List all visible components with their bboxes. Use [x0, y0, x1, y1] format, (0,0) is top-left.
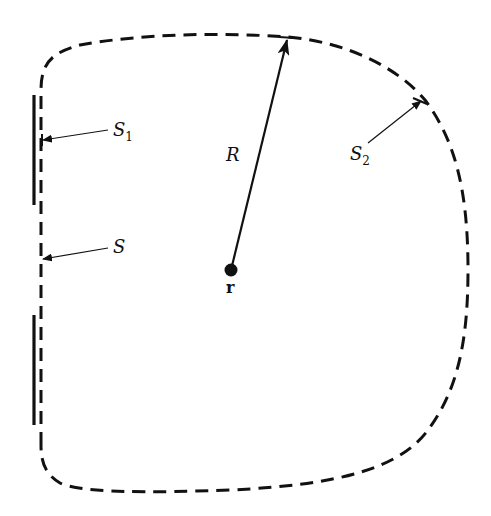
radius-tick — [279, 37, 295, 38]
s-label: S — [113, 236, 125, 257]
closed-surface-S — [41, 34, 468, 491]
radius-label: R — [225, 144, 240, 165]
diagram-canvas: S1 S S2 R r — [0, 0, 491, 516]
s2-pointer-arrow — [368, 101, 421, 143]
observation-point — [225, 264, 238, 277]
s-pointer-arrow — [43, 248, 108, 259]
s1-pointer-arrow — [43, 130, 108, 140]
point-r-label: r — [226, 278, 235, 297]
s1-label: S1 — [113, 119, 133, 144]
s2-label: S2 — [350, 143, 370, 168]
